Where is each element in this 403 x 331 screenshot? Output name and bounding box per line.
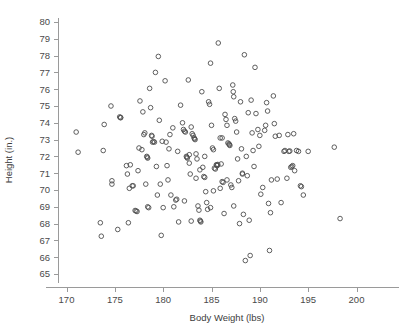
y-tick-label: 68 [39, 218, 50, 229]
y-tick-label: 72 [39, 151, 50, 162]
y-tick-label: 73 [39, 134, 50, 145]
x-tick-label: 175 [107, 294, 123, 305]
chart-canvas: 65666768697071727374757677787980 1701751… [0, 0, 403, 331]
y-tick-label: 65 [39, 268, 50, 279]
y-tick-label: 74 [39, 117, 50, 128]
y-tick-label: 69 [39, 201, 50, 212]
x-tick-label: 185 [204, 294, 220, 305]
x-axis-title: Body Weight (lbs) [190, 312, 265, 323]
y-axis-title: Height (in.) [3, 137, 14, 183]
x-tick-label: 170 [59, 294, 75, 305]
y-tick-label: 66 [39, 252, 50, 263]
scatter-plot-figure: 65666768697071727374757677787980 1701751… [0, 0, 403, 331]
y-tick-label: 77 [39, 67, 50, 78]
x-tick-label: 180 [155, 294, 171, 305]
y-tick-label: 80 [39, 16, 50, 27]
y-tick-label: 78 [39, 50, 50, 61]
x-tick-label: 200 [349, 294, 365, 305]
y-tick-label: 75 [39, 100, 50, 111]
x-tick-label: 195 [300, 294, 316, 305]
y-tick-label: 71 [39, 168, 50, 179]
y-tick-label: 76 [39, 84, 50, 95]
x-tick-label: 190 [252, 294, 268, 305]
y-tick-label: 79 [39, 33, 50, 44]
y-tick-label: 70 [39, 184, 50, 195]
y-tick-label: 67 [39, 235, 50, 246]
